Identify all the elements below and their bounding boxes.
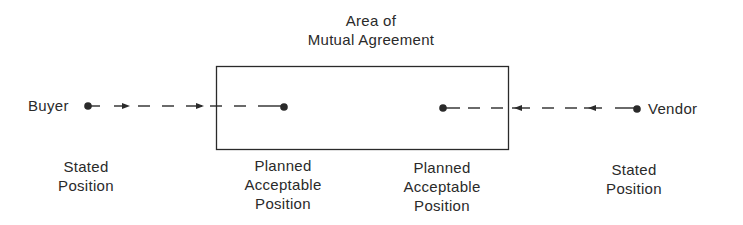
arrow-left-icon	[514, 105, 522, 111]
vendor-stated-position-label: Stated Position	[594, 160, 674, 198]
buyer-planned-dot	[280, 103, 288, 111]
buyer-stated-position-label: Stated Position	[46, 157, 126, 195]
area-title-line1: Area of	[286, 11, 456, 30]
area-title: Area of Mutual Agreement	[286, 11, 456, 49]
arrow-right-icon	[122, 103, 130, 109]
agreement-area-box	[217, 67, 509, 150]
vendor-planned-position-label: Planned Acceptable Position	[392, 158, 492, 215]
buyer-planned-position-label: Planned Acceptable Position	[233, 156, 333, 213]
vendor-stated-dot	[633, 105, 641, 113]
arrow-right-icon	[196, 103, 204, 109]
area-title-line2: Mutual Agreement	[286, 30, 456, 49]
arrow-left-icon	[588, 105, 596, 111]
vendor-planned-dot	[439, 104, 447, 112]
vendor-label: Vendor	[648, 99, 718, 118]
buyer-label: Buyer	[28, 96, 82, 115]
buyer-stated-dot	[84, 102, 92, 110]
